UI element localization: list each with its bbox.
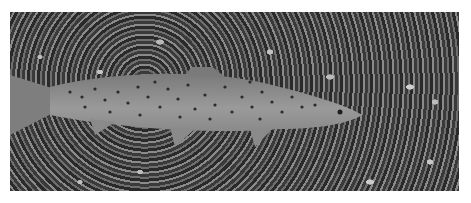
trout-photo — [10, 12, 459, 191]
trout-figure — [10, 67, 365, 147]
eye — [338, 110, 343, 115]
pectoral-fin — [250, 129, 272, 147]
pelvic-fin — [170, 127, 195, 147]
tail-fin — [10, 75, 55, 135]
